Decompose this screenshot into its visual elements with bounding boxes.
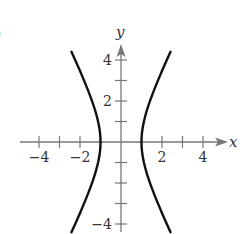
partial-figure-label: ) [0, 25, 1, 41]
y-tick-label: 2 [103, 93, 112, 109]
x-tick-label: 4 [199, 149, 208, 165]
x-tick-label: −2 [70, 149, 91, 165]
x-tick-label: 2 [158, 149, 167, 165]
y-tick-label: −4 [91, 216, 112, 232]
hyperbola-plot: ) −4−22442−4 y x [0, 0, 250, 234]
y-tick-label: 4 [103, 52, 112, 68]
x-tick-label: −4 [29, 149, 50, 165]
y-axis-label: y [115, 23, 125, 41]
x-axis-label: x [229, 133, 238, 151]
